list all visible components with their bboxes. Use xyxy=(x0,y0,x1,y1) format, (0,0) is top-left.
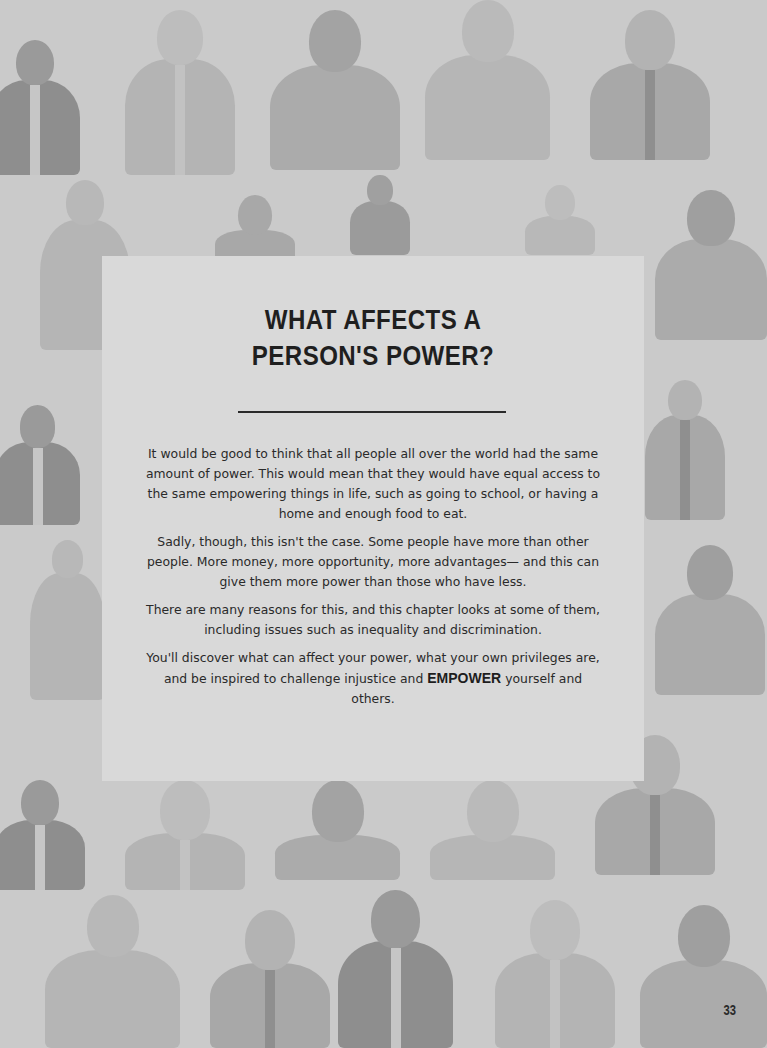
portrait-illustration xyxy=(590,10,710,160)
title-divider xyxy=(238,411,506,413)
book-page: WHAT AFFECTS A PERSON'S POWER? It would … xyxy=(0,0,767,1048)
intro-paragraph-3: There are many reasons for this, and thi… xyxy=(142,600,604,640)
portrait-tie xyxy=(175,65,185,175)
portrait-head xyxy=(20,405,56,448)
portrait-illustration xyxy=(125,780,245,890)
portrait-head xyxy=(367,175,392,205)
portrait-head xyxy=(625,10,675,70)
intro-paragraph-2: Sadly, though, this isn't the case. Some… xyxy=(142,532,604,592)
portrait-head xyxy=(545,185,574,220)
portrait-body xyxy=(655,594,765,695)
portrait-illustration xyxy=(645,380,725,520)
portrait-head xyxy=(16,40,54,85)
portrait-head xyxy=(687,190,734,246)
intro-paragraph-1: It would be good to think that all peopl… xyxy=(142,444,604,524)
portrait-body xyxy=(425,55,550,160)
portrait-illustration xyxy=(640,905,767,1048)
portrait-illustration xyxy=(525,185,595,255)
portrait-body xyxy=(30,573,105,700)
portrait-illustration xyxy=(0,40,80,175)
emphasis-word: EMPOWER xyxy=(427,670,501,686)
portrait-illustration xyxy=(45,895,180,1048)
portrait-head xyxy=(238,195,272,235)
portrait-body xyxy=(640,960,767,1048)
portrait-head xyxy=(245,910,295,970)
portrait-head xyxy=(66,180,104,225)
portrait-illustration xyxy=(655,545,765,695)
portrait-tie xyxy=(680,420,690,520)
chapter-title-line-1: WHAT AFFECTS A xyxy=(140,302,606,338)
chapter-title: WHAT AFFECTS A PERSON'S POWER? xyxy=(140,302,606,374)
portrait-body xyxy=(525,216,595,255)
portrait-head xyxy=(668,380,702,420)
portrait-tie xyxy=(650,795,660,875)
portrait-illustration xyxy=(430,780,555,880)
portrait-head xyxy=(160,780,210,840)
portrait-head xyxy=(52,540,84,578)
portrait-illustration xyxy=(350,175,410,255)
portrait-illustration xyxy=(275,780,400,880)
portrait-head xyxy=(687,545,733,600)
portrait-tie xyxy=(265,970,275,1048)
portrait-illustration xyxy=(0,780,85,890)
portrait-head xyxy=(462,0,514,62)
portrait-body xyxy=(270,65,400,170)
portrait-tie xyxy=(645,70,655,160)
portrait-tie xyxy=(550,960,560,1048)
portrait-head xyxy=(87,895,139,957)
portrait-body xyxy=(45,950,180,1048)
portrait-head xyxy=(371,890,419,948)
portrait-illustration xyxy=(0,405,80,525)
portrait-illustration xyxy=(655,190,767,340)
portrait-body xyxy=(655,239,767,340)
portrait-illustration xyxy=(210,910,330,1048)
portrait-head xyxy=(467,780,519,842)
portrait-head xyxy=(312,780,364,842)
portrait-illustration xyxy=(30,540,105,700)
portrait-tie xyxy=(35,825,45,890)
portrait-tie xyxy=(30,85,40,175)
portrait-illustration xyxy=(425,0,550,160)
intro-paragraph-4: You'll discover what can affect your pow… xyxy=(142,648,604,709)
page-number: 33 xyxy=(724,1002,736,1018)
portrait-illustration xyxy=(495,900,615,1048)
portrait-head xyxy=(530,900,580,960)
portrait-tie xyxy=(33,448,43,525)
portrait-head xyxy=(21,780,59,825)
portrait-illustration xyxy=(215,195,295,265)
portrait-tie xyxy=(391,948,401,1048)
portrait-head xyxy=(309,10,361,72)
chapter-title-line-2: PERSON'S POWER? xyxy=(140,338,606,374)
portrait-illustration xyxy=(338,890,453,1048)
chapter-intro: It would be good to think that all peopl… xyxy=(142,444,604,717)
portrait-head xyxy=(157,10,203,65)
portrait-body xyxy=(0,80,80,175)
portrait-head xyxy=(678,905,730,967)
portrait-tie xyxy=(180,840,190,890)
text-panel: WHAT AFFECTS A PERSON'S POWER? It would … xyxy=(102,256,644,781)
portrait-illustration xyxy=(125,10,235,175)
portrait-illustration xyxy=(270,10,400,170)
portrait-body xyxy=(350,201,410,255)
